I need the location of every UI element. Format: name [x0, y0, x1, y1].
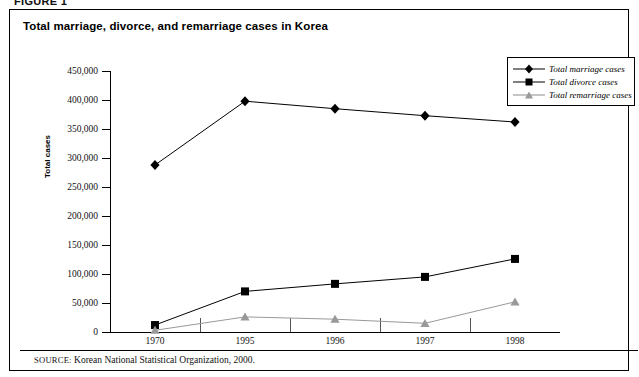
- y-axis-tick: [102, 274, 110, 275]
- data-point-marker: [241, 287, 249, 295]
- source-note: SOURCE: Korean National Statistical Orga…: [34, 355, 255, 365]
- y-axis-tick: [102, 187, 110, 188]
- y-axis-tick-label: 300,000: [67, 153, 98, 163]
- y-axis-tick: [102, 303, 110, 304]
- y-axis-tick: [102, 245, 110, 246]
- data-point-marker: [421, 273, 429, 281]
- figure-number-label: FIGURE 1: [14, 0, 67, 7]
- y-axis-tick: [102, 100, 110, 101]
- y-axis-tick-label: 150,000: [67, 240, 98, 250]
- data-point-marker: [240, 96, 249, 106]
- y-axis-tick: [102, 158, 110, 159]
- source-text: Korean National Statistical Organization…: [74, 355, 255, 365]
- data-point-marker: [150, 160, 159, 170]
- y-axis-tick-label: 200,000: [67, 211, 98, 221]
- y-axis-tick: [102, 71, 110, 72]
- data-point-marker: [511, 255, 519, 263]
- data-point-marker: [330, 104, 339, 114]
- y-axis-tick-label: 450,000: [67, 66, 98, 76]
- data-point-marker: [510, 117, 519, 127]
- legend-item-marriage: Total marriage cases: [512, 62, 629, 75]
- source-label: SOURCE:: [34, 355, 72, 365]
- chart-legend: Total marriage cases Total divorce cases: [507, 57, 635, 106]
- legend-label-remarriage: Total remarriage cases: [546, 90, 632, 100]
- y-axis-tick-label: 50,000: [72, 298, 98, 308]
- y-axis-tick-label: 250,000: [67, 182, 98, 192]
- y-axis-title: Total cases: [43, 135, 52, 178]
- y-axis-tick: [102, 129, 110, 130]
- series-layer: [110, 62, 560, 342]
- square-marker-icon: [512, 76, 546, 88]
- triangle-marker-icon: [512, 89, 546, 101]
- diamond-marker-icon: [512, 63, 546, 75]
- y-axis-tick-label: 100,000: [67, 269, 98, 279]
- legend-item-remarriage: Total remarriage cases: [512, 88, 629, 101]
- y-axis-tick-label: 400,000: [67, 95, 98, 105]
- data-point-marker: [510, 297, 519, 305]
- legend-item-divorce: Total divorce cases: [512, 75, 629, 88]
- y-axis-tick: [102, 216, 110, 217]
- y-axis-tick-label: 0: [93, 327, 98, 337]
- legend-label-divorce: Total divorce cases: [546, 77, 618, 87]
- y-axis-tick-label: 350,000: [67, 124, 98, 134]
- source-divider: [20, 350, 638, 351]
- figure-page: FIGURE 1 Total marriage, divorce, and re…: [0, 0, 639, 377]
- plot-area: 050,000100,000150,000200,000250,000300,0…: [110, 62, 560, 332]
- legend-label-marriage: Total marriage cases: [546, 64, 625, 74]
- chart-title: Total marriage, divorce, and remarriage …: [23, 20, 328, 32]
- data-point-marker: [420, 111, 429, 121]
- y-axis-tick: [102, 332, 110, 333]
- data-point-marker: [331, 280, 339, 288]
- figure-box: Total marriage, divorce, and remarriage …: [9, 9, 629, 371]
